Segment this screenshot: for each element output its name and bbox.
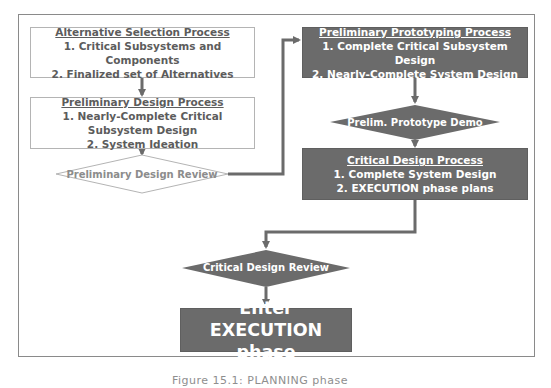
preliminary-prototyping-line-2: 2. Nearly-Complete System Design (312, 67, 518, 81)
demo-label: Prelim. Prototype Demo (347, 117, 482, 129)
figure-caption: Figure 15.1: PLANNING phase (172, 374, 348, 387)
alternative-selection-line-2: 2. Finalized set of Alternatives (52, 67, 234, 81)
cdr-label: Critical Design Review (203, 262, 329, 274)
alternative-selection-line-1: 1. Critical Subsystems and Components (31, 39, 254, 67)
alternative-selection-title: Alternative Selection Process (55, 25, 229, 39)
enter-execution-label: Enter EXECUTION phase (181, 297, 351, 363)
preliminary-design-line-1: 1. Nearly-Complete Critical Subsystem De… (31, 109, 254, 137)
preliminary-prototyping-line-1: 1. Complete Critical Subsystem Design (303, 39, 527, 67)
preliminary-design-title: Preliminary Design Process (61, 95, 223, 109)
critical-design-title: Critical Design Process (347, 153, 483, 167)
alternative-selection-box: Alternative Selection Process 1. Critica… (30, 27, 255, 78)
preliminary-design-line-2: 2. System Ideation (87, 137, 198, 151)
critical-design-line-2: 2. EXECUTION phase plans (336, 181, 493, 195)
preliminary-design-box: Preliminary Design Process 1. Nearly-Com… (30, 97, 255, 149)
arrow-critical-to-cdr (266, 200, 415, 247)
preliminary-prototyping-box: Preliminary Prototyping Process 1. Compl… (302, 27, 528, 78)
preliminary-prototyping-title: Preliminary Prototyping Process (319, 25, 511, 39)
critical-design-line-1: 1. Complete System Design (334, 167, 497, 181)
critical-design-box: Critical Design Process 1. Complete Syst… (302, 148, 528, 200)
pdr-label: Preliminary Design Review (66, 169, 217, 181)
enter-execution-box: Enter EXECUTION phase (180, 308, 352, 352)
